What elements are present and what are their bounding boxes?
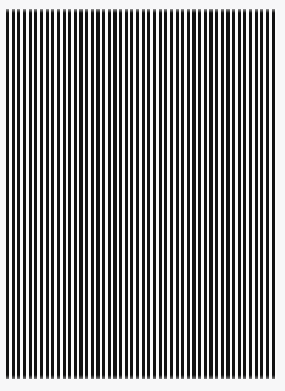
stripe-bar	[249, 9, 252, 379]
stripe-bar	[226, 9, 229, 379]
stripe-bar	[108, 9, 111, 379]
stripe-bar	[12, 9, 15, 379]
stripe-bar	[142, 9, 145, 379]
stripe-bar	[125, 9, 128, 379]
stripe-bar	[23, 9, 26, 379]
stripe-bar	[159, 9, 162, 379]
stripe-bar	[68, 9, 71, 379]
stripe-bar	[272, 9, 275, 379]
stripe-bar	[266, 9, 269, 379]
stripe-pattern-canvas	[0, 0, 285, 391]
stripe-bar	[57, 9, 60, 379]
stripe-bar	[29, 9, 32, 379]
stripe-bar	[40, 9, 43, 379]
stripe-bar	[17, 9, 20, 379]
stripe-bar	[96, 9, 99, 379]
stripe-bar	[260, 9, 263, 379]
stripe-bar	[181, 9, 184, 379]
stripe-layer	[6, 9, 277, 379]
stripe-bar	[63, 9, 66, 379]
stripe-bar	[187, 9, 190, 379]
stripe-bar	[215, 9, 218, 379]
stripe-bar	[6, 9, 9, 379]
stripe-bar	[102, 9, 105, 379]
stripe-bar	[51, 9, 54, 379]
stripe-bar	[232, 9, 235, 379]
stripe-bar	[170, 9, 173, 379]
stripe-bar	[46, 9, 49, 379]
stripe-bar	[74, 9, 77, 379]
stripe-bar	[255, 9, 258, 379]
stripe-bar	[192, 9, 195, 379]
stripe-bar	[136, 9, 139, 379]
stripe-bar	[147, 9, 150, 379]
stripe-bar	[153, 9, 156, 379]
stripe-bar	[91, 9, 94, 379]
stripe-bar	[164, 9, 167, 379]
stripe-bar	[119, 9, 122, 379]
stripe-bar	[85, 9, 88, 379]
stripe-bar	[204, 9, 207, 379]
stripe-bar	[176, 9, 179, 379]
stripe-bar	[34, 9, 37, 379]
stripe-field	[6, 9, 277, 379]
stripe-bar	[113, 9, 116, 379]
stripe-bar	[198, 9, 201, 379]
stripe-bar	[221, 9, 224, 379]
stripe-bar	[209, 9, 212, 379]
stripe-bar	[130, 9, 133, 379]
stripe-bar	[79, 9, 82, 379]
stripe-bar	[238, 9, 241, 379]
stripe-bar	[243, 9, 246, 379]
